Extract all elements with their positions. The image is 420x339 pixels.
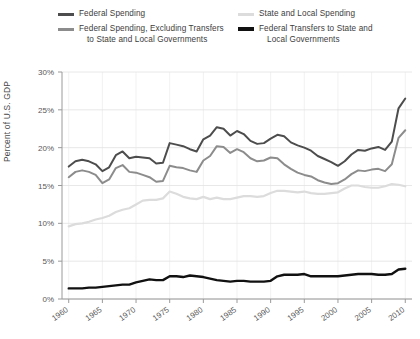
legend-label-federal-spending-excluding-transfers: Federal Spending, Excluding Transfers to… bbox=[79, 23, 224, 46]
legend-swatch-federal-spending-excluding-transfers bbox=[58, 28, 74, 31]
x-tick-label: 1960 bbox=[50, 305, 70, 323]
legend-item-state-and-local-spending: State and Local Spending bbox=[238, 8, 416, 20]
x-tick-label: 2010 bbox=[387, 305, 407, 323]
y-tick-label: 15% bbox=[38, 182, 54, 191]
x-tick-label: 1985 bbox=[218, 305, 238, 323]
chart-container: Federal Spending Federal Spending, Exclu… bbox=[0, 0, 420, 339]
x-tick-label: 1990 bbox=[252, 305, 272, 323]
y-tick-label: 10% bbox=[38, 219, 54, 228]
legend-item-federal-spending-excluding-transfers: Federal Spending, Excluding Transfers to… bbox=[58, 23, 238, 46]
y-tick-label: 25% bbox=[38, 106, 54, 115]
legend-column-left: Federal Spending Federal Spending, Exclu… bbox=[58, 8, 238, 49]
legend-label-state-and-local-spending: State and Local Spending bbox=[259, 8, 355, 20]
y-tick-label: 30% bbox=[38, 68, 54, 77]
x-axis-ticks: 1960196519701975198019851990199520002005… bbox=[50, 299, 407, 323]
y-tick-label: 5% bbox=[42, 257, 54, 266]
x-tick-label: 1970 bbox=[117, 305, 137, 323]
legend-swatch-federal-spending bbox=[58, 13, 74, 16]
y-tick-label: 20% bbox=[38, 144, 54, 153]
plot-area: Percent of U.S. GDP 0%5%10%15%20%25%30% … bbox=[0, 58, 420, 339]
y-axis-ticks: 0%5%10%15%20%25%30% bbox=[38, 68, 62, 304]
legend-item-federal-transfers: Federal Transfers to State and Local Gov… bbox=[238, 23, 416, 46]
legend-swatch-federal-transfers bbox=[238, 27, 254, 31]
chart-svg: 0%5%10%15%20%25%30% 19601965197019751980… bbox=[0, 58, 420, 339]
legend-item-federal-spending: Federal Spending bbox=[58, 8, 238, 20]
legend-swatch-state-and-local-spending bbox=[238, 13, 254, 16]
x-tick-label: 1975 bbox=[151, 305, 171, 323]
legend-label-federal-spending: Federal Spending bbox=[79, 8, 145, 20]
x-tick-label: 1980 bbox=[185, 305, 205, 323]
x-tick-label: 2000 bbox=[319, 305, 339, 323]
legend-column-right: State and Local Spending Federal Transfe… bbox=[238, 8, 416, 49]
x-tick-label: 2005 bbox=[353, 305, 373, 323]
chart-legend: Federal Spending Federal Spending, Exclu… bbox=[0, 0, 420, 58]
legend-label-federal-transfers: Federal Transfers to State and Local Gov… bbox=[259, 23, 373, 46]
x-tick-label: 1995 bbox=[286, 305, 306, 323]
x-tick-label: 1965 bbox=[84, 305, 104, 323]
y-tick-label: 0% bbox=[42, 295, 54, 304]
